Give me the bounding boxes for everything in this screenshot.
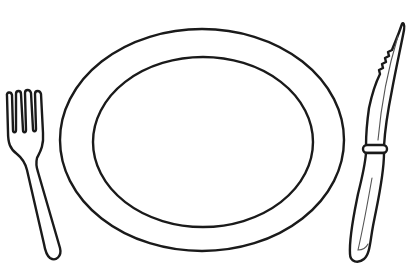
plate <box>60 29 344 251</box>
plate-inner-well <box>93 57 313 227</box>
knife-icon <box>350 23 404 261</box>
fork-icon <box>7 90 61 259</box>
place-setting-drawing <box>0 0 415 269</box>
